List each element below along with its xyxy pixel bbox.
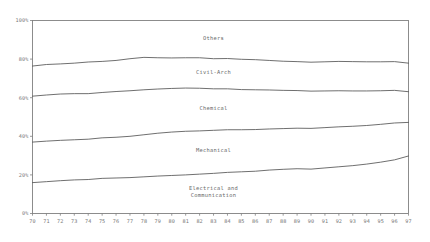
y-tick-label: 60% [19,95,29,101]
series-label-others: Others [164,35,264,42]
series-label-line: Mechanical [164,147,264,154]
series-label-line: Others [164,35,264,42]
series-label-civil-arch: Civil-Arch [164,69,264,76]
series-label-chemical: Chemical [164,105,264,112]
y-tick-label: 0% [22,210,28,216]
y-tick-label: 40% [19,133,29,139]
series-label-line: Communication [164,192,264,199]
x-tick-label: 97 [401,218,417,224]
series-label-mechanical: Mechanical [164,147,264,154]
y-tick-label: 20% [19,172,29,178]
percent-stacked-line-chart: 0%20%40%60%80%100% 707172737475767778798… [0,0,430,242]
series-label-line: Chemical [164,105,264,112]
y-tick-label: 80% [19,56,29,62]
series-label-line: Electrical and [164,185,264,192]
series-label-line: Civil-Arch [164,69,264,76]
series-label-electrical-and-communication: Electrical andCommunication [164,185,264,199]
y-tick-label: 100% [16,17,29,23]
